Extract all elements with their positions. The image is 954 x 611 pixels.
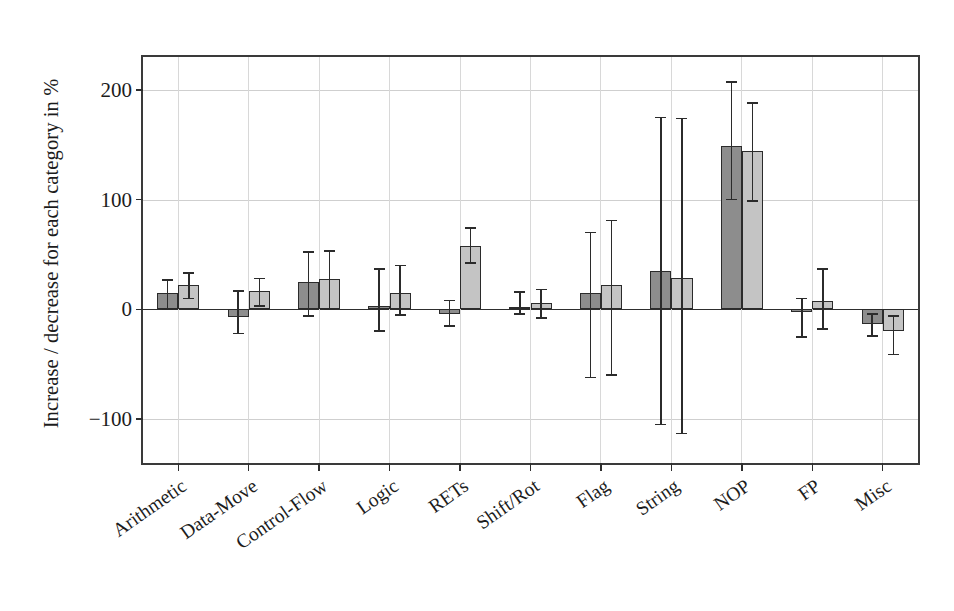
error-bar-stem xyxy=(590,233,592,378)
error-bar-stem xyxy=(611,220,613,375)
x-tick-mark xyxy=(882,463,883,471)
error-bar-cap-upper xyxy=(324,250,335,252)
x-tick-mark xyxy=(812,463,813,471)
error-bar-cap-lower xyxy=(183,298,194,300)
error-bar-cap-lower xyxy=(655,424,666,426)
error-bar-cap-upper xyxy=(726,81,737,83)
y-tick-mark xyxy=(136,418,143,420)
error-bar-stem xyxy=(871,314,873,336)
figure-container: Increase / decrease for each category in… xyxy=(0,0,954,611)
error-bar-cap-upper xyxy=(514,291,525,293)
error-bar-stem xyxy=(470,228,472,263)
x-tick-label-text: NOP xyxy=(710,475,755,515)
error-bar-cap-lower xyxy=(676,433,687,435)
error-bar-stem xyxy=(259,279,261,306)
x-tick-mark xyxy=(530,463,531,471)
error-bar-cap-upper xyxy=(676,118,687,120)
x-gridline xyxy=(178,57,179,463)
error-bar-cap-upper xyxy=(183,272,194,274)
error-bar-cap-upper xyxy=(374,268,385,270)
y-tick-mark xyxy=(136,89,143,91)
x-tick-mark xyxy=(318,463,319,471)
error-bar-cap-lower xyxy=(817,328,828,330)
error-bar-cap-upper xyxy=(254,278,265,280)
x-tick-label-text: Logic xyxy=(352,475,402,519)
error-bar-cap-lower xyxy=(514,313,525,315)
error-bar-cap-lower xyxy=(444,325,455,327)
error-bar-cap-lower xyxy=(233,333,244,335)
error-bar-cap-upper xyxy=(655,117,666,119)
x-gridline xyxy=(389,57,390,463)
error-bar-stem xyxy=(752,103,754,201)
error-bar-cap-lower xyxy=(888,354,899,356)
error-bar-cap-lower xyxy=(374,330,385,332)
error-bar-stem xyxy=(801,298,803,336)
error-bar-cap-lower xyxy=(796,336,807,338)
error-bar-cap-upper xyxy=(233,290,244,292)
error-bar-cap-lower xyxy=(606,374,617,376)
y-tick-label: −100 xyxy=(89,407,132,432)
error-bar-stem xyxy=(540,290,542,319)
y-tick-mark xyxy=(136,199,143,201)
error-bar-cap-lower xyxy=(726,199,737,201)
x-tick-mark xyxy=(600,463,601,471)
error-bar-stem xyxy=(167,280,169,310)
x-tick-mark xyxy=(389,463,390,471)
x-tick-mark xyxy=(248,463,249,471)
x-gridline xyxy=(882,57,883,463)
x-tick-mark xyxy=(741,463,742,471)
x-gridline xyxy=(530,57,531,463)
error-bar-stem xyxy=(378,269,380,332)
error-bar-cap-lower xyxy=(162,309,173,311)
x-tick-mark xyxy=(671,463,672,471)
y-tick-label: 0 xyxy=(122,297,133,322)
x-gridline xyxy=(319,57,320,463)
x-tick-mark xyxy=(459,463,460,471)
plot-area: 2001000−100ArithmeticData-MoveControl-Fl… xyxy=(141,55,920,465)
error-bar-cap-upper xyxy=(606,220,617,222)
x-gridline xyxy=(671,57,672,463)
x-tick-label-text: RETs xyxy=(425,475,473,518)
error-bar-cap-lower xyxy=(747,200,758,202)
x-gridline xyxy=(812,57,813,463)
error-bar-cap-lower xyxy=(395,314,406,316)
error-bar-stem xyxy=(681,118,683,433)
error-bar-stem xyxy=(399,265,401,314)
error-bar-cap-upper xyxy=(162,279,173,281)
x-tick-label-text: Misc xyxy=(851,475,896,515)
y-tick-label: 200 xyxy=(101,77,133,102)
y-axis-title: Increase / decrease for each category in… xyxy=(40,39,63,469)
x-tick-label-text: Flag xyxy=(573,475,614,513)
y-tick-mark xyxy=(136,309,143,311)
error-bar-cap-lower xyxy=(867,335,878,337)
error-bar-cap-upper xyxy=(817,268,828,270)
error-bar-stem xyxy=(519,292,521,314)
error-bar-stem xyxy=(308,252,310,316)
error-bar-cap-upper xyxy=(888,315,899,317)
error-bar-stem xyxy=(660,117,662,424)
error-bar-cap-lower xyxy=(324,309,335,311)
error-bar-cap-upper xyxy=(444,300,455,302)
error-bar-cap-lower xyxy=(254,305,265,307)
error-bar-cap-upper xyxy=(747,102,758,104)
error-bar-stem xyxy=(893,316,895,354)
error-bar-cap-upper xyxy=(465,227,476,229)
error-bar-cap-upper xyxy=(796,298,807,300)
y-tick-label: 100 xyxy=(101,187,133,212)
x-gridline xyxy=(600,57,601,463)
error-bar-cap-lower xyxy=(585,377,596,379)
error-bar-cap-upper xyxy=(585,232,596,234)
error-bar-cap-lower xyxy=(536,317,547,319)
error-bar-cap-upper xyxy=(536,289,547,291)
x-tick-mark xyxy=(178,463,179,471)
error-bar-cap-lower xyxy=(465,262,476,264)
error-bar-stem xyxy=(449,301,451,326)
error-bar-cap-upper xyxy=(303,251,314,253)
error-bar-cap-lower xyxy=(303,315,314,317)
x-gridline xyxy=(248,57,249,463)
error-bar-stem xyxy=(237,291,239,334)
error-bar-cap-upper xyxy=(867,313,878,315)
error-bar-stem xyxy=(822,269,824,329)
x-tick-label-text: String xyxy=(632,475,684,520)
x-tick-label-text: FP xyxy=(795,475,825,505)
